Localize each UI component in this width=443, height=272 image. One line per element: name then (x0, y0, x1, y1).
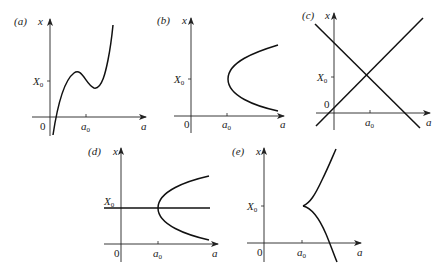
y-axis-label: x (255, 145, 261, 157)
bifurcation-diagrams: (a) x X0 a0 0 a (b) x X0 a0 0 a (c) x X0… (0, 0, 443, 272)
panel-label: (b) (157, 14, 170, 27)
x-axis-label: a (212, 247, 218, 259)
cubic-curve (53, 25, 113, 135)
y-tick-label: X0 (32, 75, 44, 89)
x-tick-label: a0 (222, 118, 232, 132)
y-axis-label: x (112, 145, 118, 157)
panel-c: (c) x X0 a0 0 a (302, 9, 432, 130)
y-axis-label: x (324, 9, 330, 21)
lower-branch (303, 206, 337, 262)
x-axis-label: a (426, 116, 432, 128)
panel-label: (d) (88, 145, 101, 158)
x-axis-label: a (141, 120, 147, 132)
origin-label: 0 (114, 247, 120, 259)
panel-label: (c) (302, 9, 315, 22)
panel-label: (e) (232, 145, 245, 158)
y-axis-label: x (181, 14, 187, 26)
falling-line (315, 24, 420, 128)
y-axis-label: x (37, 15, 43, 27)
panel-label: (a) (14, 15, 27, 28)
x-tick-label: a0 (365, 116, 375, 130)
x-axis-label: a (280, 118, 286, 130)
panel-b: (b) x X0 a0 0 a (157, 14, 286, 133)
x-axis-label: a (357, 246, 363, 258)
x-tick-label: a0 (81, 120, 91, 134)
parabola-curve (228, 45, 278, 111)
origin-label: 0 (324, 98, 330, 110)
origin-label: 0 (184, 118, 190, 130)
y-tick-label: X0 (246, 200, 258, 214)
panel-d: (d) x X0 a0 0 a (88, 145, 218, 262)
panel-e: (e) x X0 a0 0 a (232, 145, 363, 262)
x-tick-label: a0 (297, 246, 307, 260)
x-tick-label: a0 (153, 247, 163, 261)
upper-branch (303, 149, 336, 206)
y-tick-label: X0 (316, 71, 328, 85)
panel-a: (a) x X0 a0 0 a (14, 15, 147, 136)
origin-label: 0 (40, 120, 46, 132)
y-tick-label: X0 (103, 195, 115, 209)
rising-line (316, 18, 423, 126)
y-tick-label: X0 (173, 73, 185, 87)
origin-label: 0 (257, 246, 263, 258)
